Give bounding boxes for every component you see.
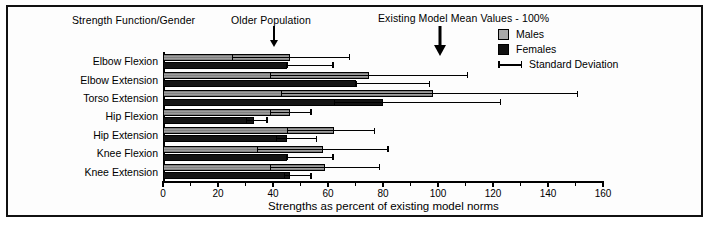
x-tick-label: 0 <box>160 188 166 199</box>
legend-item-males: Males <box>498 28 618 41</box>
error-bar <box>287 127 375 134</box>
x-tick-label: 160 <box>595 188 612 199</box>
error-bar <box>270 72 468 79</box>
error-bar <box>356 80 430 87</box>
x-tick <box>547 181 549 187</box>
x-tick-minor <box>300 181 302 186</box>
y-axis-label: Torso Extension <box>83 92 158 104</box>
y-axis-label: Hip Extension <box>93 129 158 141</box>
x-axis-title: Strengths as percent of existing model n… <box>163 200 604 212</box>
x-tick-label: 20 <box>212 188 223 199</box>
x-tick-label: 40 <box>267 188 278 199</box>
error-bar <box>246 117 268 124</box>
annotation-older-population: Older Population <box>231 14 311 26</box>
y-axis-label: Knee Extension <box>84 166 158 178</box>
bar-females-elbow-extension <box>163 80 356 87</box>
x-tick-label: 60 <box>322 188 333 199</box>
annotation-existing-model-mean: Existing Model Mean Values - 100% <box>378 12 549 24</box>
x-tick <box>272 181 274 187</box>
y-axis-label: Elbow Extension <box>80 74 158 86</box>
x-tick <box>492 181 494 187</box>
x-tick-minor <box>355 181 357 186</box>
bar-females-knee-extension <box>163 172 290 179</box>
error-bar <box>284 172 312 179</box>
y-axis-labels: Elbow FlexionElbow ExtensionTorso Extens… <box>0 0 158 226</box>
x-tick <box>217 181 219 187</box>
x-tick-minor <box>245 181 247 186</box>
x-tick-minor <box>465 181 467 186</box>
y-axis-label: Elbow Flexion <box>93 55 158 67</box>
bar-females-hip-extension <box>163 135 287 142</box>
x-tick <box>437 181 439 187</box>
bar-females-elbow-flexion <box>163 62 287 69</box>
x-tick-minor <box>520 181 522 186</box>
x-tick <box>382 181 384 187</box>
x-tick <box>602 181 604 187</box>
y-axis-label: Hip Flexion <box>105 110 158 122</box>
error-bar <box>287 154 334 161</box>
error-bar <box>281 90 578 97</box>
error-bar <box>270 164 380 171</box>
error-bar <box>287 62 334 69</box>
error-bar <box>276 135 317 142</box>
x-tick-label: 80 <box>377 188 388 199</box>
x-tick-label: 140 <box>540 188 557 199</box>
x-tick <box>327 181 329 187</box>
x-tick-minor <box>575 181 577 186</box>
bar-females-knee-flexion <box>163 154 287 161</box>
bars-plot-area <box>163 52 603 180</box>
x-tick-minor <box>190 181 192 186</box>
error-bar <box>270 109 311 116</box>
y-axis-label: Knee Flexion <box>97 147 158 159</box>
error-bar <box>257 146 389 153</box>
error-bar <box>334 99 502 106</box>
legend-label-males: Males <box>516 28 544 41</box>
x-tick-label: 100 <box>430 188 447 199</box>
error-bar <box>232 54 350 61</box>
x-tick-label: 120 <box>485 188 502 199</box>
bar-females-hip-flexion <box>163 117 254 124</box>
x-tick <box>162 181 164 187</box>
chart-canvas: Strength Function/Gender Older Populatio… <box>0 0 711 226</box>
x-tick-minor <box>410 181 412 186</box>
males-swatch-icon <box>498 29 509 40</box>
